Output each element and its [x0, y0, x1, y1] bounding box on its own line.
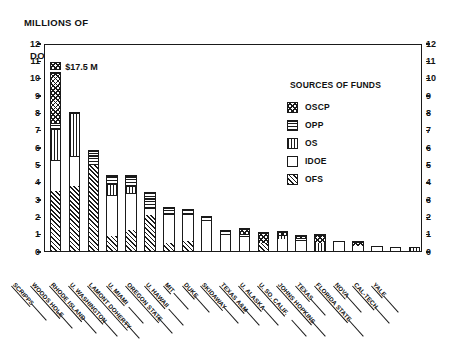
bar-segment-idoe — [240, 237, 250, 251]
x-label-text: U. WASHINGTON — [69, 281, 109, 324]
bar-duke[interactable] — [220, 230, 232, 251]
x-label-rhode-island: RHODE ISLAND — [50, 281, 88, 322]
x-label-leader-line — [311, 319, 326, 336]
bar-u-alaska[interactable] — [277, 231, 289, 251]
bar-segment-idoe — [126, 193, 136, 231]
x-label-leader-15 — [309, 296, 329, 317]
bar-u-hawaii[interactable] — [182, 209, 194, 251]
bar-woods-hole[interactable] — [69, 112, 81, 251]
bar-segment-opp — [145, 193, 155, 208]
bar-segment-idoe — [221, 235, 231, 251]
x-label-leader-line — [58, 311, 73, 328]
legend-items: OSCPOPPOSIDOEOFS — [287, 99, 407, 187]
x-label-u-miami: U. MIAMI — [107, 281, 130, 306]
y-tick-mark-9 — [37, 95, 41, 96]
x-label-text: FLORIDA STATE — [315, 281, 353, 323]
x-label-texas: TEXAS — [296, 281, 315, 301]
bar-segment-opp — [51, 123, 61, 128]
legend-swatch-idoe-icon — [287, 156, 298, 167]
x-label-text: U. HAWAII — [145, 281, 171, 309]
bar-u-miami[interactable] — [144, 192, 156, 251]
y-tick-mark-0 — [426, 251, 430, 252]
bar-nova[interactable] — [371, 246, 383, 251]
y-tick-mark-10 — [37, 78, 41, 79]
bar-segment-opp — [164, 208, 174, 214]
x-label-duke: DUKE — [182, 281, 199, 299]
legend-swatch-os-icon — [287, 138, 298, 149]
bar-mit[interactable] — [201, 216, 213, 251]
x-label-u-hawaii: U. HAWAII — [145, 281, 171, 309]
x-label-leader-6 — [155, 314, 175, 335]
x-label-florida-state: FLORIDA STATE — [315, 281, 353, 323]
x-label-leader-line — [82, 316, 97, 333]
x-label-leader-line — [311, 298, 326, 315]
legend-item-opp[interactable]: OPP — [287, 117, 407, 133]
x-label-text: LAMONT DOHERTY — [88, 281, 133, 330]
x-label-lamont-doherty: LAMONT DOHERTY — [88, 281, 133, 330]
x-label-text: U. SO. CALIF. — [258, 281, 291, 316]
bar-segment-opp — [202, 217, 212, 220]
x-label-leader-7 — [167, 306, 187, 327]
bar-rhode-island[interactable] — [88, 150, 100, 251]
x-label-leader-line — [245, 309, 260, 326]
bar-johns-hopkins[interactable] — [314, 234, 326, 251]
scripps-value-annotation: $17.5 M — [65, 62, 98, 72]
bar-texas-a-m[interactable] — [258, 232, 270, 251]
x-label-text: U. MIAMI — [107, 281, 130, 306]
x-label-leader-13 — [290, 317, 310, 338]
x-label-leader-line — [129, 306, 144, 323]
bar-segment-ofs — [183, 241, 193, 251]
legend-item-os[interactable]: OS — [287, 135, 407, 151]
bar-florida-state[interactable] — [352, 241, 364, 251]
bar-yale[interactable] — [409, 247, 421, 251]
bar-segment-opp — [221, 231, 231, 234]
x-label-leader-1 — [56, 309, 76, 330]
legend-swatch-opp-icon — [287, 120, 298, 131]
x-label-text: WOODS HOLE — [31, 281, 66, 318]
bar-segment-oscp — [240, 229, 250, 234]
bar-segment-idoe — [278, 239, 288, 251]
y-tick-mark-5 — [37, 165, 41, 166]
legend-item-idoe[interactable]: IDOE — [287, 153, 407, 169]
bar-u-so-calif[interactable] — [295, 235, 307, 251]
x-label-text: RHODE ISLAND — [50, 281, 88, 322]
bar-segment-os — [126, 186, 136, 193]
bar-segment-os — [278, 235, 288, 238]
x-label-leader-11 — [243, 306, 263, 327]
x-label-leader-line — [375, 306, 390, 323]
x-label-leader-line — [349, 319, 364, 336]
legend-label-idoe: IDOE — [305, 156, 327, 166]
bar-lamont-doherty[interactable] — [125, 175, 137, 251]
y-tick-mark-5 — [426, 165, 430, 166]
bar-oregon-state[interactable] — [163, 207, 175, 251]
x-label-leader-19 — [382, 293, 402, 314]
x-label-leader-10 — [222, 304, 242, 325]
bar-skidaway[interactable] — [239, 228, 251, 251]
legend-item-ofs[interactable]: OFS — [287, 171, 407, 187]
x-label-nova: NOVA — [334, 281, 351, 299]
bar-segment-os — [70, 113, 80, 156]
bar-segment-idoe — [334, 242, 344, 251]
x-label-leader-line — [346, 295, 361, 312]
x-label-u-washington: U. WASHINGTON — [69, 281, 109, 324]
bar-segment-opp — [296, 238, 306, 240]
x-label-leader-line — [223, 306, 238, 323]
bar-u-washington[interactable] — [106, 175, 118, 251]
y-tick-mark-0 — [37, 251, 41, 252]
legend-swatch-oscp-icon — [287, 102, 298, 113]
legend-item-oscp[interactable]: OSCP — [287, 99, 407, 115]
bar-segment-os — [107, 184, 117, 194]
bar-segment-ofs — [107, 236, 117, 251]
x-label-leader-2 — [80, 314, 100, 335]
legend-label-os: OS — [305, 138, 318, 148]
y-tick-mark-8 — [426, 113, 430, 114]
bar-scripps[interactable] — [50, 72, 62, 251]
bar-segment-idoe — [183, 214, 193, 241]
x-label-leader-line — [384, 295, 399, 312]
y-axis-right-ticks: 0123456789101112 — [426, 44, 444, 252]
y-tick-mark-6 — [426, 147, 430, 148]
bar-cal-tech[interactable] — [390, 247, 402, 251]
x-label-text: JOHNS HOPKINS — [277, 281, 317, 325]
x-label-text: TEXAS A&M — [220, 281, 250, 313]
bar-texas[interactable] — [333, 241, 345, 251]
